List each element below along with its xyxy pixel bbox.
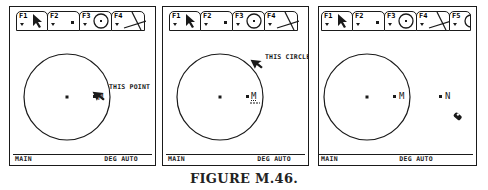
tooltip-this-circle: THIS CIRCLE — [265, 53, 309, 61]
status-settings: DEG AUTO — [399, 155, 433, 163]
point-label-n: N — [445, 91, 450, 101]
point-label-m-highlighted: M — [251, 91, 256, 101]
calculator-screen-1: F1 F2 F3 F4 M THIS POINT MAIN DEG AUTO — [9, 6, 156, 166]
status-bar: MAIN DEG AUTO — [13, 154, 152, 163]
status-bar: MAIN DEG AUTO — [319, 154, 473, 163]
calculator-screen-3: F1 F2 F3 F4 F5 M N — [318, 6, 477, 166]
center-point — [66, 96, 69, 99]
center-point — [366, 96, 369, 99]
point-m — [246, 95, 249, 98]
figure-caption: FIGURE M.46. — [0, 171, 488, 186]
center-point — [219, 96, 222, 99]
status-settings: DEG AUTO — [257, 155, 291, 163]
tooltip-this-point: THIS POINT — [109, 83, 150, 91]
status-bar: MAIN DEG AUTO — [166, 154, 305, 163]
status-mode: MAIN — [168, 155, 185, 163]
point-label-m: M — [98, 92, 103, 102]
point-n — [439, 95, 442, 98]
geometry-canvas[interactable] — [319, 7, 477, 166]
geometry-canvas[interactable] — [163, 7, 309, 166]
point-label-m: M — [399, 91, 404, 101]
calculator-screen-2: F1 F2 F3 F4 M THIS CIRCLE MAIN DEG AUTO — [162, 6, 309, 166]
status-settings: DEG AUTO — [104, 155, 138, 163]
status-mode: MAIN — [15, 155, 32, 163]
status-mode: MAIN — [321, 155, 338, 163]
pencil-cursor-icon — [453, 112, 462, 121]
point-m — [393, 95, 396, 98]
